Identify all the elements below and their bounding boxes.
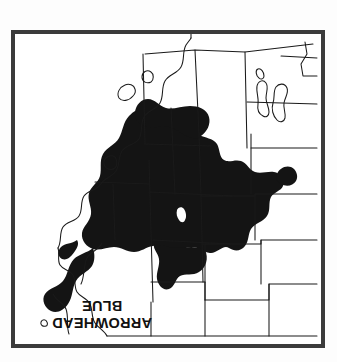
map-plate-frame: ARROWHEAD BLUE <box>11 30 325 348</box>
map-range-caption: distribution range <box>0 0 1 1</box>
map-region-caption: Western United States <box>0 0 1 1</box>
range-map-svg <box>15 34 321 344</box>
figure-plate: ARROWHEAD BLUE Western United States dis… <box>0 0 337 362</box>
